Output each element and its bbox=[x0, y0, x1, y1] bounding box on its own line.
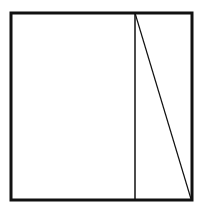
geometry-figure bbox=[0, 0, 202, 211]
diagonal-line bbox=[135, 13, 191, 199]
diagram-canvas bbox=[0, 0, 202, 211]
outer-square bbox=[11, 13, 192, 200]
